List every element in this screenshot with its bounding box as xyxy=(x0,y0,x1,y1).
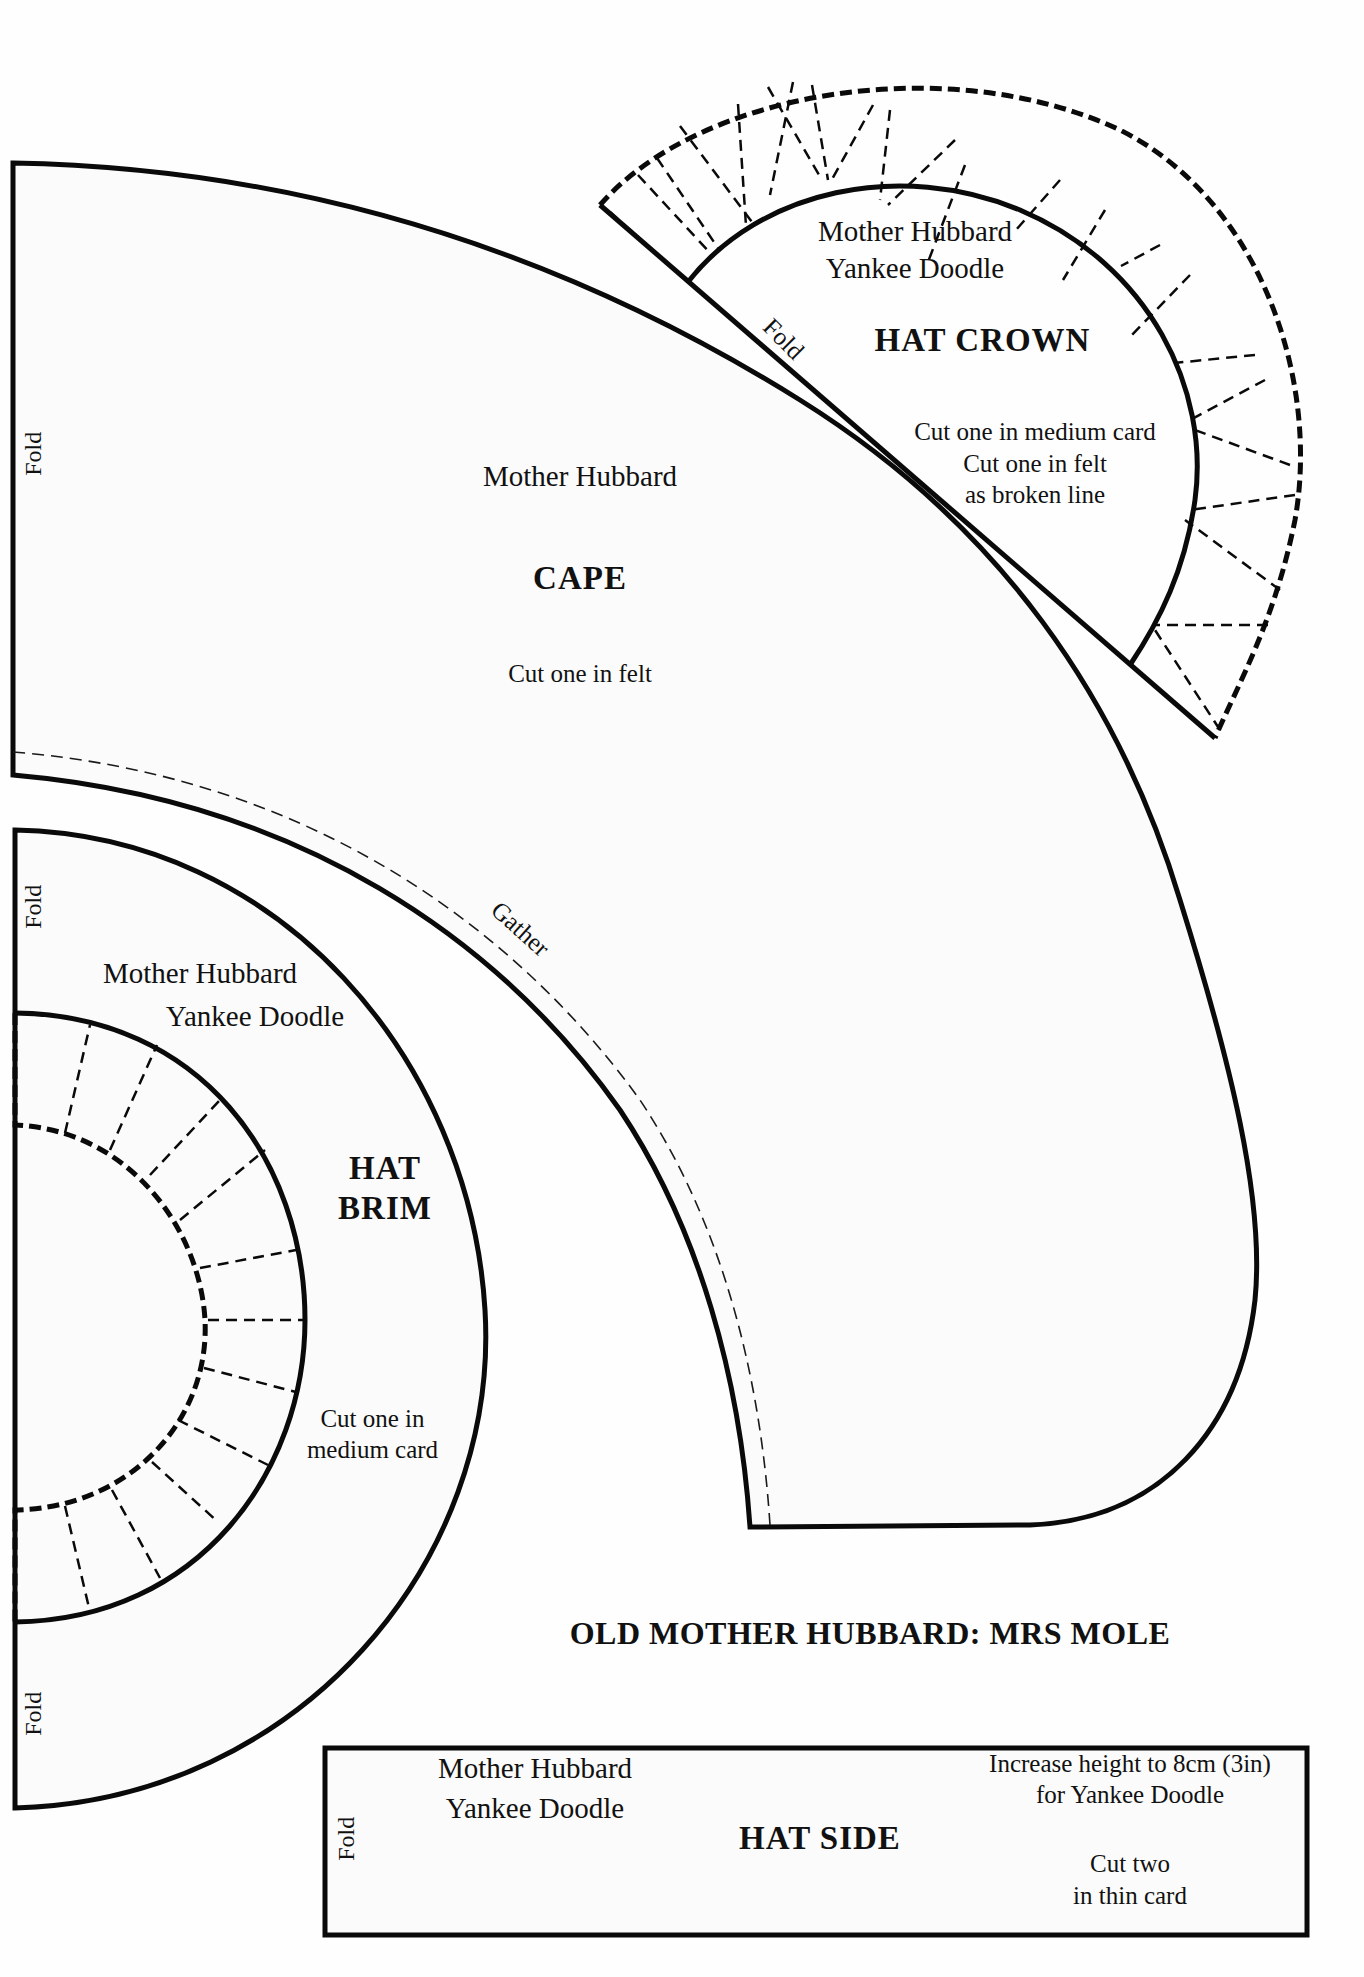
crown-instructions-1: Cut one in medium card xyxy=(890,418,1180,447)
pattern-sheet: Fold Mother Hubbard CAPE Cut one in felt… xyxy=(0,0,1364,1977)
crown-title: HAT CROWN xyxy=(850,322,1115,360)
side-character-2: Yankee Doodle xyxy=(400,1792,670,1825)
side-note-2: for Yankee Doodle xyxy=(955,1781,1305,1810)
brim-title-1: HAT xyxy=(320,1150,450,1188)
brim-fold-label-top: Fold xyxy=(20,885,48,929)
brim-title-2: BRIM xyxy=(320,1190,450,1228)
side-note-1: Increase height to 8cm (3in) xyxy=(955,1750,1305,1779)
side-instructions-2: in thin card xyxy=(1020,1882,1240,1911)
brim-instructions-1: Cut one in xyxy=(290,1405,455,1434)
crown-character-1: Mother Hubbard xyxy=(780,215,1050,248)
side-character-1: Mother Hubbard xyxy=(400,1752,670,1785)
brim-fold-label-bottom: Fold xyxy=(20,1692,48,1736)
cape-fold-label: Fold xyxy=(20,432,48,476)
cape-instructions: Cut one in felt xyxy=(480,660,680,689)
page-title: OLD MOTHER HUBBARD: MRS MOLE xyxy=(500,1615,1240,1652)
brim-character-2: Yankee Doodle xyxy=(130,1000,380,1033)
crown-character-2: Yankee Doodle xyxy=(780,252,1050,285)
side-fold-label: Fold xyxy=(333,1817,361,1861)
side-title: HAT SIDE xyxy=(700,1820,940,1858)
cape-character: Mother Hubbard xyxy=(445,460,715,493)
crown-instructions-2: Cut one in felt xyxy=(890,450,1180,479)
crown-instructions-3: as broken line xyxy=(890,481,1180,510)
side-instructions-1: Cut two xyxy=(1020,1850,1240,1879)
cape-title: CAPE xyxy=(480,560,680,598)
brim-instructions-2: medium card xyxy=(290,1436,455,1465)
brim-character-1: Mother Hubbard xyxy=(70,957,330,990)
